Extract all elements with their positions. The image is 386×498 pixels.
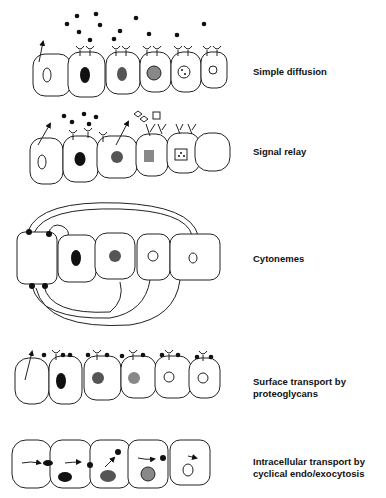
label-line-2: cyclical endo/exocytosis bbox=[253, 468, 365, 480]
label-line-2: proteoglycans bbox=[253, 388, 346, 400]
label-cytonemes: Cytonemes bbox=[253, 253, 304, 265]
cytonemes-diagram bbox=[17, 203, 220, 326]
label-simple-diffusion: Simple diffusion bbox=[253, 66, 327, 78]
simple-diffusion-diagram bbox=[33, 12, 227, 97]
label-line-1: Intracellular transport by bbox=[253, 456, 365, 468]
signal-relay-diagram bbox=[30, 111, 230, 184]
label-line-1: Surface transport by bbox=[253, 376, 346, 388]
label-surface-transport: Surface transport by proteoglycans bbox=[253, 376, 346, 400]
surface-transport-diagram bbox=[15, 350, 220, 404]
label-signal-relay: Signal relay bbox=[253, 146, 306, 158]
label-intracellular-transport: Intracellular transport by cyclical endo… bbox=[253, 456, 365, 480]
intracellular-transport-diagram bbox=[12, 440, 210, 488]
